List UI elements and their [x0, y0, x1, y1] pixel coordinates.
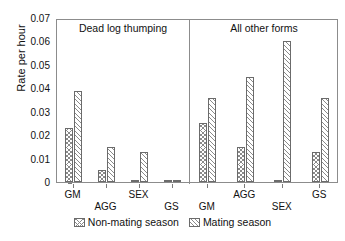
chart-legend: Non-mating seasonMating season: [0, 216, 345, 228]
y-tick-label: 0.03: [16, 108, 50, 118]
bar-gs-nonmating: [312, 152, 320, 182]
x-tick-label: GS: [152, 202, 192, 212]
y-tick-label: 0.04: [16, 84, 50, 94]
x-tick-label: GS: [299, 190, 339, 200]
x-tick-mark: [244, 184, 245, 188]
bar-gs-mating: [321, 98, 329, 182]
panel-title-right: All other forms: [189, 22, 339, 34]
x-tick-label: AGG: [224, 190, 264, 200]
bar-gs-nonmating: [164, 180, 172, 182]
bar-agg-nonmating: [237, 147, 245, 182]
x-tick-mark: [282, 184, 283, 188]
bar-sex-mating: [283, 41, 291, 182]
chart-figure: Rate per hour 0.070.060.050.040.030.020.…: [0, 0, 345, 241]
x-tick-mark: [319, 184, 320, 188]
legend-label: Non-mating season: [88, 216, 179, 228]
bar-gm-nonmating: [65, 128, 73, 182]
x-tick-mark: [139, 184, 140, 188]
bar-sex-nonmating: [274, 180, 282, 182]
legend-item: Non-mating season: [74, 216, 179, 228]
x-tick-label: AGG: [86, 202, 126, 212]
bar-sex-mating: [140, 152, 148, 182]
legend-item: Mating season: [189, 216, 271, 228]
bar-gs-mating: [173, 180, 181, 182]
y-tick-mark: [68, 183, 72, 184]
plot-area: Dead log thumping All other forms: [56, 19, 338, 183]
y-tick-label: 0.07: [16, 14, 50, 24]
legend-swatch-nonmating: [74, 218, 85, 227]
x-tick-label: SEX: [119, 190, 159, 200]
x-tick-mark: [172, 184, 173, 188]
bar-gm-nonmating: [199, 123, 207, 182]
bar-gm-mating: [74, 91, 82, 182]
legend-swatch-mating: [189, 218, 200, 227]
bar-gm-mating: [208, 98, 216, 182]
bar-agg-mating: [107, 147, 115, 182]
y-tick-label: 0.01: [16, 155, 50, 165]
panel-title-left: Dead log thumping: [57, 22, 189, 34]
y-axis-tick-labels: 0.070.060.050.040.030.020.010: [16, 0, 50, 241]
x-tick-mark: [207, 184, 208, 188]
bar-sex-nonmating: [131, 180, 139, 182]
y-tick-label: 0.02: [16, 131, 50, 141]
x-tick-label: SEX: [262, 202, 302, 212]
y-tick-label: 0: [16, 178, 50, 188]
panel-divider: [189, 20, 190, 184]
legend-label: Mating season: [203, 216, 271, 228]
x-tick-label: GM: [53, 190, 93, 200]
x-tick-mark: [106, 184, 107, 188]
bar-agg-nonmating: [98, 170, 106, 182]
y-tick-label: 0.06: [16, 37, 50, 47]
y-tick-label: 0.05: [16, 61, 50, 71]
bar-agg-mating: [246, 77, 254, 182]
x-tick-label: GM: [187, 202, 227, 212]
x-tick-mark: [73, 184, 74, 188]
